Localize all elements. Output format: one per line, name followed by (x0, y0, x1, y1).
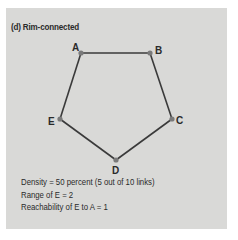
node-label-e: E (48, 116, 55, 127)
node-d (113, 157, 118, 162)
edge-d-e (60, 119, 116, 160)
range-text: Range of E = 2 (21, 189, 155, 202)
node-label-b: B (155, 45, 162, 56)
node-label-d: D (112, 165, 119, 176)
edge-c-d (116, 119, 172, 160)
node-b (147, 50, 152, 55)
node-e (57, 116, 62, 121)
edges (60, 53, 172, 160)
nodes (57, 50, 174, 162)
density-text: Density = 50 percent (5 out of 10 links) (21, 176, 155, 189)
node-label-a: A (72, 42, 79, 53)
node-labels: A B C D E (48, 42, 183, 176)
node-c (169, 116, 174, 121)
edge-e-a (60, 53, 81, 119)
node-label-c: C (176, 115, 183, 126)
edge-b-c (150, 53, 172, 119)
reachability-text: Reachability of E to A = 1 (21, 201, 155, 214)
graph-stats: Density = 50 percent (5 out of 10 links)… (21, 176, 155, 214)
